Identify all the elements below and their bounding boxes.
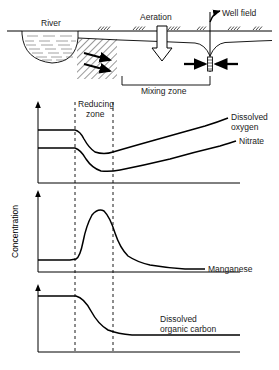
mixing-zone-bracket: [122, 76, 210, 85]
river-label: River: [41, 18, 61, 28]
aeration-label: Aeration: [140, 12, 172, 22]
dissolved-oxygen-label-line1: Dissolved: [231, 112, 268, 122]
panel-2: [35, 190, 240, 272]
dissolved-organic-carbon-label-line2: organic carbon: [160, 324, 216, 334]
figure-svg: [0, 0, 279, 370]
groundwater-concentration-figure: River Aeration Well field Mixing zone Re…: [0, 0, 279, 370]
reducing-zone-boundaries: [75, 102, 113, 352]
reducing-zone-label-line2: zone: [86, 109, 104, 119]
mixing-zone-label: Mixing zone: [141, 86, 186, 96]
dissolved-organic-carbon-label-line1: Dissolved: [160, 314, 197, 324]
panel-3: [35, 284, 240, 352]
dissolved-oxygen-label-line2: oxygen: [231, 122, 258, 132]
curve-manganese: [38, 210, 205, 269]
well-field-label: Well field: [222, 8, 256, 18]
ground-surface-ticks: [98, 27, 262, 31]
manganese-label: Manganese: [208, 264, 252, 274]
panel-1: [35, 101, 240, 183]
concentration-axis-label: Concentration: [10, 205, 20, 258]
reducing-zone-label-line1: Reducing: [78, 99, 114, 109]
aquifer-hatch: [77, 39, 117, 79]
nitrate-label: Nitrate: [239, 136, 264, 146]
